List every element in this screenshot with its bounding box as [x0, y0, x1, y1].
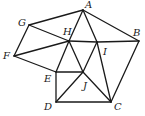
segment-JI — [83, 42, 97, 72]
segment-IB — [97, 41, 139, 42]
point-label-H: H — [62, 26, 72, 37]
point-label-I: I — [102, 46, 108, 57]
labels-group: ABCDEFGHIJ — [2, 0, 140, 112]
segment-JH — [69, 41, 83, 72]
segment-JC — [83, 72, 111, 102]
point-label-E: E — [43, 73, 52, 84]
segment-HI — [69, 41, 97, 42]
point-label-C: C — [114, 101, 122, 112]
segment-AG — [29, 10, 83, 25]
point-label-B: B — [132, 27, 140, 38]
point-label-A: A — [84, 0, 92, 10]
point-label-J: J — [81, 80, 88, 91]
geometry-diagram: ABCDEFGHIJ — [0, 0, 145, 116]
point-label-D: D — [43, 101, 52, 112]
segment-DJ — [56, 72, 83, 102]
edges-group — [14, 10, 139, 102]
segment-BC — [111, 41, 139, 102]
segment-AI — [83, 10, 97, 42]
point-label-F: F — [2, 50, 11, 61]
segment-FH — [14, 41, 69, 56]
segment-GF — [14, 25, 29, 56]
segment-EH — [56, 41, 69, 72]
segment-FE — [14, 56, 56, 72]
segment-AB — [83, 10, 139, 41]
point-label-G: G — [18, 17, 26, 28]
